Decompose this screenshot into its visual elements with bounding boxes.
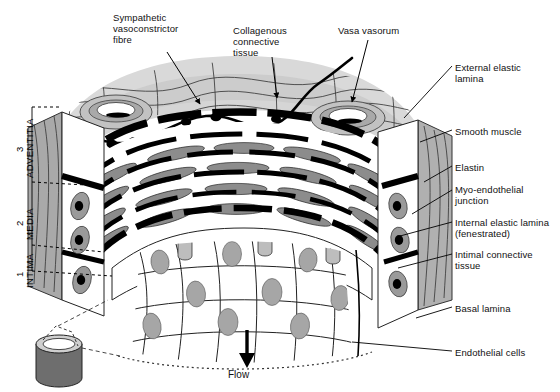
label-internal-elastic-lamina: Internal elastic lamina (fenestrated) (455, 217, 549, 239)
label-basal-lamina: Basal lamina (455, 303, 511, 314)
layer-number-media: 2 (14, 221, 25, 226)
endothelial-cell-sheet (128, 228, 360, 371)
right-cut-face (378, 120, 452, 328)
vessel-segment-cylinder (36, 326, 82, 387)
label-intimal-connective-tissue: Intimal connective tissue (455, 249, 533, 271)
layer-label-intima: INTIMA (24, 254, 35, 288)
label-smooth-muscle: Smooth muscle (455, 126, 522, 137)
label-collagenous-connective-tissue: Collagenous connective tissue (233, 25, 287, 59)
label-sympathetic-vasoconstrictor-fibre: Sympathetic vasoconstrictor fibre (113, 12, 178, 46)
figure-canvas: ADVENTITIA 3 MEDIA 2 INTIMA 1 Sympatheti… (0, 0, 560, 392)
label-vasa-vasorum: Vasa vasorum (338, 25, 399, 36)
label-elastin: Elastin (455, 162, 484, 173)
label-myo-endothelial-junction: Myo-endothelial junction (455, 184, 524, 206)
layer-number-intima: 1 (14, 272, 25, 277)
layer-label-adventitia: ADVENTITIA (24, 118, 35, 178)
layer-label-media: MEDIA (24, 208, 35, 240)
left-cut-face (28, 112, 104, 316)
intima-layer (112, 228, 372, 371)
label-external-elastic-lamina: External elastic lamina (455, 62, 521, 84)
label-flow: Flow (228, 369, 249, 380)
layer-number-adventitia: 3 (14, 147, 25, 152)
label-endothelial-cells: Endothelial cells (455, 347, 525, 358)
